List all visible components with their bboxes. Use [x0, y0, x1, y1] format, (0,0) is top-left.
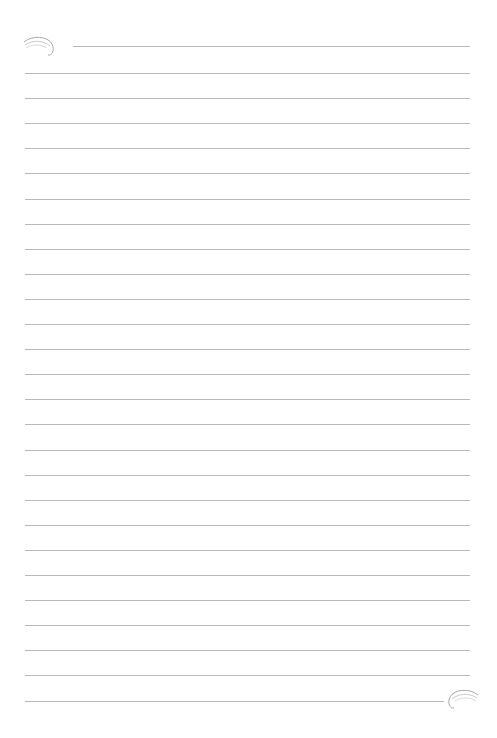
- swirl-ornament-top-left-icon: [22, 36, 58, 60]
- ruled-line: [25, 550, 470, 551]
- ruled-line: [25, 299, 470, 300]
- ruled-line: [25, 249, 470, 250]
- ruled-line: [25, 173, 470, 174]
- ruled-line: [25, 600, 470, 601]
- ruled-line: [25, 98, 470, 99]
- ruled-line: [25, 224, 470, 225]
- ruled-line: [73, 46, 470, 47]
- ruled-line: [25, 500, 470, 501]
- ruled-line: [25, 148, 470, 149]
- ruled-line: [25, 675, 470, 676]
- notepaper-page: [0, 0, 497, 738]
- ruled-line: [25, 274, 470, 275]
- ruled-line: [25, 349, 470, 350]
- ruled-line: [25, 475, 470, 476]
- ruled-line: [25, 424, 470, 425]
- ruled-line: [25, 73, 470, 74]
- ruled-line: [25, 525, 470, 526]
- ruled-line: [25, 374, 470, 375]
- ruled-line: [25, 575, 470, 576]
- ruled-line: [25, 123, 470, 124]
- ruled-line: [25, 199, 470, 200]
- ruled-line: [25, 324, 470, 325]
- ruled-line: [25, 650, 470, 651]
- ruled-line: [25, 701, 444, 702]
- ruled-line: [25, 399, 470, 400]
- ruled-line: [25, 625, 470, 626]
- ruled-line: [25, 450, 470, 451]
- swirl-ornament-bottom-right-icon: [444, 689, 480, 713]
